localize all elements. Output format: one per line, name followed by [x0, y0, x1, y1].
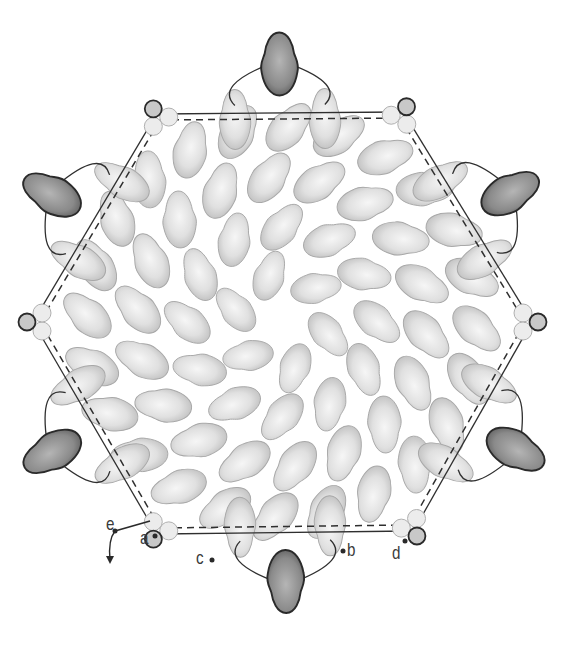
subunit-blob: [334, 180, 397, 226]
subunit-blob: [247, 247, 293, 305]
subunit-blob: [161, 190, 197, 249]
subunit-blob: [353, 132, 418, 182]
label-b: b: [347, 540, 355, 559]
subunit-blob: [299, 216, 361, 264]
label-a: a: [140, 528, 148, 547]
edge-solid-line: [35, 117, 155, 319]
label-c: c: [196, 548, 204, 567]
subunit-blob: [314, 496, 347, 556]
arrow-head-icon: [106, 556, 114, 564]
subunit-blob: [351, 463, 396, 526]
subunit-blob: [335, 254, 394, 295]
subunit-blob: [264, 434, 325, 500]
subunit-blob: [389, 257, 455, 313]
circle-cluster: [144, 513, 177, 548]
label-e: e: [106, 514, 114, 533]
circle-cluster: [382, 98, 416, 133]
subunit-blob: [252, 196, 311, 258]
edge-solid-line: [160, 531, 410, 534]
circle-cluster: [144, 100, 177, 135]
circle-cluster: [392, 510, 425, 545]
subunit-blob: [474, 161, 547, 224]
circle-cluster: [514, 304, 547, 340]
subunit-blob: [220, 337, 275, 375]
subunit-blob: [479, 419, 552, 482]
subunit-blob: [146, 463, 211, 513]
subunit-blob: [252, 386, 311, 448]
subunit-blob: [366, 395, 402, 454]
subunit-blob: [16, 420, 89, 483]
subunit-blob: [267, 550, 305, 614]
subunit-blob: [167, 418, 230, 464]
marker-dot: [341, 549, 346, 554]
protein-complex-diagram: a b c d e: [0, 0, 565, 645]
subunit-blob: [170, 349, 229, 390]
subunit-blob: [168, 118, 213, 181]
subunit-blob: [133, 385, 194, 425]
subunit-blob: [309, 375, 350, 434]
label-d: d: [392, 543, 400, 562]
subunit-blob: [272, 339, 318, 397]
subunit-blob: [109, 332, 175, 388]
subunit-blob: [261, 32, 299, 95]
subunit-blob: [15, 163, 88, 226]
subunit-blob: [239, 145, 300, 211]
subunit-blob: [214, 210, 255, 269]
subunit-blob: [444, 297, 509, 360]
diagram-canvas: [0, 0, 565, 645]
subunit-blob: [346, 292, 408, 351]
subunit-blob: [309, 88, 341, 148]
subunit-blob: [55, 284, 120, 347]
subunit-blob: [204, 380, 266, 428]
arrow-e-curve: [110, 531, 115, 560]
subunit-blob: [156, 292, 218, 351]
marker-dot: [153, 534, 158, 539]
edge-dashed-line: [40, 120, 160, 322]
marker-dot: [210, 558, 215, 563]
subunit-blob: [288, 269, 343, 307]
subunit-blob: [370, 219, 431, 259]
marker-dot: [403, 539, 408, 544]
circle-cluster: [19, 304, 52, 340]
